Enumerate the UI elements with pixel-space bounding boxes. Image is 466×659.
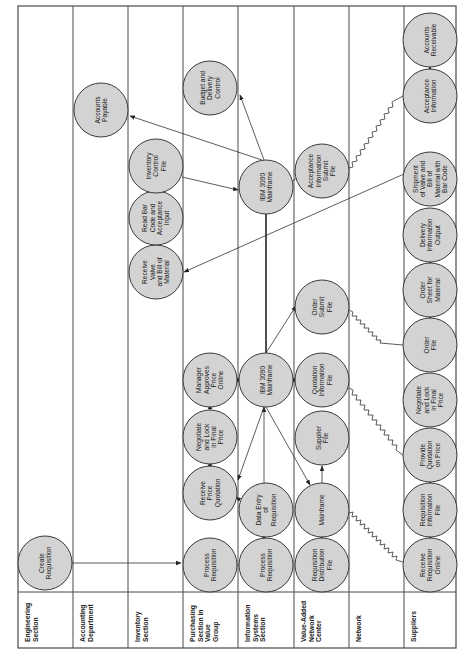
lane-labels: EngineeringSectionAccountingDepartmentIn… <box>24 601 418 642</box>
node-accounts-payable: AccountsPayable <box>74 83 128 137</box>
svg-text:EngineeringSection: EngineeringSection <box>24 603 39 642</box>
node-create-req: CreateRequisition <box>18 536 72 590</box>
svg-text:IBM 3090Mainframe: IBM 3090Mainframe <box>259 364 273 395</box>
svg-text:Network: Network <box>355 615 362 642</box>
svg-text:IBM 3090Mainframe: IBM 3090Mainframe <box>259 171 273 202</box>
lane-label-purchasing: PurchasingSection inValueGroup <box>189 605 220 642</box>
svg-text:InventorySection: InventorySection <box>134 611 149 642</box>
node-budget-delivery: Budget andDeliveryControl <box>183 61 237 115</box>
node-ibm-3090-high: IBM 3090Mainframe <box>239 160 293 214</box>
svg-text:ReceiveValveand Bill ofMateria: ReceiveValveand Bill ofMaterial <box>141 257 170 286</box>
svg-text:AcceptanceInformation: AcceptanceInformation <box>423 78 437 113</box>
svg-text:ProcessRequisition: ProcessRequisition <box>203 548 218 581</box>
node-delivery-info-output: DeliveryInformationOutput <box>403 208 457 262</box>
node-order-submit-file: OrderSubmitFile <box>295 280 349 334</box>
lane-label-inventory: InventorySection <box>134 611 149 642</box>
lane-label-suppliers: Suppliers <box>410 611 418 642</box>
node-provide-quotation: ProvideQuotationon Price <box>403 428 457 482</box>
lane-label-engineering: EngineeringSection <box>24 603 39 642</box>
node-process-req-purch: ProcessRequisition <box>183 538 237 592</box>
node-negotiate-purch: Negotiateand Lockin FinalPrice <box>183 410 237 464</box>
node-receive-req-online: ReceiveRequisitionOnline <box>403 538 457 592</box>
node-manager-approves: ManagerApprovesPriceOnline <box>183 353 237 407</box>
node-supplier-file: SupplierFile <box>295 411 349 465</box>
svg-text:AccountsReceivable: AccountsReceivable <box>423 23 437 56</box>
lane-label-van: Value-AddedNetworkCenter <box>300 601 322 642</box>
node-quotation-info-file: QuotationInformationFile <box>295 353 349 407</box>
svg-text:ProvideQuotationon Price: ProvideQuotationon Price <box>419 440 441 469</box>
lane-label-accounting: AccountingDepartment <box>79 603 95 642</box>
node-inventory-control: InventoryControlFile <box>129 139 183 193</box>
node-negotiate-sup: Negotiateand Lockin FinalPrice <box>403 373 457 427</box>
svg-text:PurchasingSection inValueGroup: PurchasingSection inValueGroup <box>189 605 220 642</box>
node-receive-price-quote: ReceivePriceQuotation <box>183 466 237 520</box>
lane-label-infosys: InformationSystemsSection <box>244 605 266 642</box>
node-accounts-receivable: AccountsReceivable <box>403 13 457 67</box>
node-receive-valve: ReceiveValveand Bill ofMaterial <box>129 245 183 299</box>
svg-text:Value-AddedNetworkCenter: Value-AddedNetworkCenter <box>300 601 322 642</box>
node-ibm-3090-low: IBM 3090Mainframe <box>239 353 293 407</box>
svg-text:ProcessRequisition: ProcessRequisition <box>259 548 274 581</box>
node-data-entry: Data EntryofRequisition <box>239 483 293 537</box>
node-read-bar-code: Read BarCode andAcceptanceInput <box>129 191 183 245</box>
node-acceptance-info: AcceptanceInformation <box>403 69 457 123</box>
node-req-info-file: RequisitionInformationFile <box>403 483 457 537</box>
node-shipment: Shipmentof Valve andBill ofMaterial with… <box>403 152 457 206</box>
node-process-req-is: ProcessRequisition <box>239 538 293 592</box>
svg-text:AccountsPayable: AccountsPayable <box>94 96 109 124</box>
lane-label-network: Network <box>355 615 362 642</box>
node-order-sheet: OrderSheet forMaterial <box>403 263 457 317</box>
node-acceptance-submit-file: AcceptanceInformationSubmitFile <box>295 144 349 198</box>
svg-text:Mainframe: Mainframe <box>318 494 325 525</box>
node-mainframe-van: Mainframe <box>295 483 349 537</box>
node-order-file: OrderFile <box>403 318 457 372</box>
svg-text:InformationSystemsSection: InformationSystemsSection <box>244 605 266 642</box>
swimlane-diagram: EngineeringSectionAccountingDepartmentIn… <box>0 0 466 659</box>
svg-text:AccountingDepartment: AccountingDepartment <box>79 603 95 642</box>
node-req-dist-file: RequisitionDistributionFile <box>295 538 349 592</box>
svg-text:Suppliers: Suppliers <box>410 611 418 642</box>
